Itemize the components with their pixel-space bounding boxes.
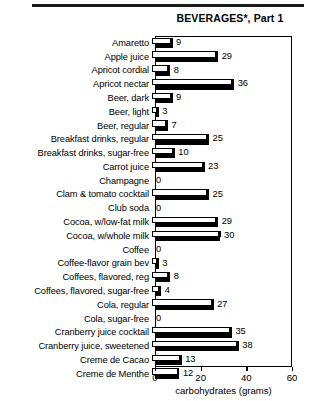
bar-row: Breakfast drinks, regular25	[0, 132, 311, 146]
bar-body	[152, 189, 209, 195]
bar-value-label: 25	[213, 133, 223, 144]
bar-row: Cola, sugar-free0	[0, 312, 311, 326]
bar-plot-zone: 30	[152, 229, 311, 243]
bar-tip	[167, 65, 170, 76]
bar-body	[152, 341, 239, 347]
bar	[152, 148, 175, 159]
bar-category-label: Champagne	[0, 176, 152, 186]
bar-plot-zone: 23	[152, 160, 311, 174]
bar-body	[152, 231, 221, 237]
bar-category-label: Cranberry juice cocktail	[0, 327, 152, 337]
bar-plot-zone: 38	[152, 339, 311, 353]
bar-category-label: Coffees, flavored, reg	[0, 272, 152, 282]
bar-plot-zone: 4	[152, 284, 311, 298]
bar-value-label: 8	[174, 271, 179, 282]
bar	[152, 355, 182, 366]
bar-body	[152, 327, 232, 333]
bar-plot-zone: 27	[152, 298, 311, 312]
bar-value-label: 10	[178, 147, 188, 158]
bar-row: Club soda0	[0, 201, 311, 215]
bar-body	[152, 134, 209, 140]
bar-value-label: 27	[217, 299, 227, 310]
bar-plot-zone: 10	[152, 146, 311, 160]
bar-value-label: 0	[156, 175, 161, 186]
bar-plot-zone: 29	[152, 215, 311, 229]
x-axis: carbohydrates (grams) 0204060	[0, 367, 311, 401]
bar	[152, 286, 161, 297]
bar-category-label: Beer, dark	[0, 93, 152, 103]
bar-value-label: 30	[224, 230, 234, 241]
bar-plot-zone: 0	[152, 243, 311, 257]
bar-tip	[156, 258, 159, 269]
bar-category-label: Amaretto	[0, 38, 152, 48]
bar-value-label: 23	[208, 161, 218, 172]
bar-row: Cranberry juice cocktail35	[0, 325, 311, 339]
bar-tip	[231, 79, 234, 90]
x-axis-tick-label: 40	[241, 372, 252, 383]
bar-value-label: 35	[235, 326, 245, 337]
bar-tip	[206, 189, 209, 200]
bar-row: Cranberry juice, sweetened38	[0, 339, 311, 353]
bar-tip	[236, 341, 239, 352]
bar-row: Beer, dark9	[0, 91, 311, 105]
bar-plot-zone: 13	[152, 353, 311, 367]
bar-value-label: 3	[162, 106, 167, 117]
bar	[152, 272, 170, 283]
bar-plot-zone: 0	[152, 174, 311, 188]
bar-plot-zone: 25	[152, 188, 311, 202]
bar-row: Coffees, flavored, reg8	[0, 270, 311, 284]
bar-row: Apricot nectar36	[0, 77, 311, 91]
bar-category-label: Club soda	[0, 203, 152, 213]
bar-category-label: Clam & tomato cocktail	[0, 189, 152, 199]
bar-tip	[170, 93, 173, 104]
bar-row: Beer, light3	[0, 105, 311, 119]
bar-body	[152, 79, 234, 85]
bar-row: Beer, regular7	[0, 119, 311, 133]
bar-category-label: Coffees, flavored, sugar-free	[0, 286, 152, 296]
bar-tip	[229, 327, 232, 338]
bar-row: Clam & tomato cocktail25	[0, 188, 311, 202]
bar-value-label: 0	[156, 244, 161, 255]
bar-plot-zone: 29	[152, 50, 311, 64]
bar-tip	[206, 134, 209, 145]
bar-category-label: Cola, regular	[0, 300, 152, 310]
bar-category-label: Carrot juice	[0, 162, 152, 172]
bar	[152, 120, 168, 131]
bar-category-label: Apple juice	[0, 52, 152, 62]
bar-category-label: Apricot nectar	[0, 79, 152, 89]
bar-plot-zone: 7	[152, 119, 311, 133]
bar-body	[152, 51, 218, 57]
bar-plot-zone: 3	[152, 105, 311, 119]
bar-plot-zone: 8	[152, 270, 311, 284]
bar-row: Coffee0	[0, 243, 311, 257]
bar-value-label: 8	[174, 65, 179, 76]
bar	[152, 327, 232, 338]
bar-value-label: 7	[171, 120, 176, 131]
bar-category-label: Coffee	[0, 245, 152, 255]
bar-value-label: 29	[222, 216, 232, 227]
page-top-rule	[32, 4, 304, 7]
bar-category-label: Cocoa, w/low-fat milk	[0, 217, 152, 227]
bar	[152, 65, 170, 76]
bar	[152, 134, 209, 145]
bar	[152, 299, 214, 310]
bar-body	[152, 217, 218, 223]
x-axis-title: carbohydrates (grams)	[155, 385, 292, 396]
bar-row: Coffees, flavored, sugar-free4	[0, 284, 311, 298]
bar-category-label: Apricot cordial	[0, 65, 152, 75]
bar-plot-zone: 35	[152, 325, 311, 339]
bar	[152, 189, 209, 200]
bar-category-label: Creme de Cacao	[0, 355, 152, 365]
bar-tip	[215, 217, 218, 228]
chart-page: BEVERAGES*, Part 1 Amaretto9Apple juice2…	[0, 0, 311, 401]
bar-plot-zone: 36	[152, 77, 311, 91]
bar-row: Cocoa, w/whole milk30	[0, 229, 311, 243]
x-axis-tick	[292, 367, 293, 371]
bar	[152, 107, 159, 118]
bar-value-label: 4	[165, 285, 170, 296]
bar-row: Amaretto9	[0, 36, 311, 50]
bar-tip	[172, 148, 175, 159]
bar-value-label: 25	[213, 189, 223, 200]
bar-plot-zone: 9	[152, 91, 311, 105]
bar-row: Apricot cordial8	[0, 64, 311, 78]
